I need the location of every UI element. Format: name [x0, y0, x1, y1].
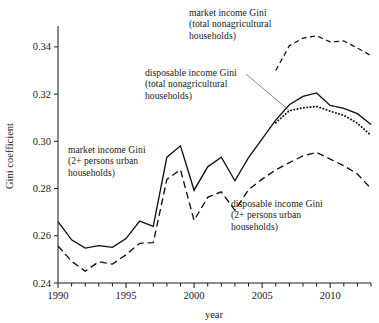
x-tick-label: 1995 — [116, 290, 137, 301]
annotation-disposable-income-total-nonagricultural: disposable income Gini (total nonagricul… — [145, 67, 237, 101]
x-axis-tick-labels: 19901995200020052010 — [48, 290, 341, 301]
annotation-line: disposable income Gini — [145, 67, 237, 78]
annotation-leader-lines — [246, 74, 289, 111]
y-tick-label: 0.28 — [33, 183, 51, 194]
y-tick-label: 0.34 — [33, 41, 52, 52]
annotation-line: (total nonagricultural — [145, 78, 237, 89]
annotation-line: (total nonagricultural — [189, 18, 271, 29]
y-tick-label: 0.26 — [33, 230, 51, 241]
annotation-line: households) — [145, 90, 237, 101]
y-axis-tick-labels: 0.240.260.280.300.320.34 — [33, 41, 52, 288]
y-axis-title: Gini coefficient — [4, 123, 15, 189]
chart-plot-area: 0.240.260.280.300.320.34 199019952000200… — [0, 0, 379, 323]
annotation-line: households) — [189, 30, 271, 41]
series-line-3 — [276, 106, 371, 135]
gini-coefficient-chart: 0.240.260.280.300.320.34 199019952000200… — [0, 0, 379, 323]
annotation-line: households) — [231, 221, 323, 232]
y-tick-label: 0.24 — [33, 278, 52, 289]
annotation-market-income-urban: market income Gini (2+ persons urban hou… — [68, 144, 146, 178]
y-axis-ticks — [54, 47, 58, 283]
x-tick-label: 2000 — [184, 290, 205, 301]
x-axis-title: year — [205, 309, 224, 320]
x-tick-label: 2010 — [320, 290, 341, 301]
x-axis-ticks — [58, 283, 371, 288]
annotation-line: market income Gini — [68, 144, 146, 155]
annotation-line: (2+ persons urban — [231, 209, 323, 220]
leader-line-disposable-total — [246, 74, 289, 111]
series-line-2 — [276, 36, 371, 71]
y-tick-label: 0.30 — [33, 136, 51, 147]
annotation-market-income-total-nonagricultural: market income Gini (total nonagricultura… — [189, 7, 271, 41]
annotation-line: households) — [68, 167, 146, 178]
annotation-line: (2+ persons urban — [68, 155, 146, 166]
y-tick-label: 0.32 — [33, 89, 51, 100]
x-tick-label: 1990 — [48, 290, 69, 301]
x-tick-label: 2005 — [252, 290, 273, 301]
annotation-line: disposable income Gini — [231, 198, 323, 209]
annotation-disposable-income-urban: disposable income Gini (2+ persons urban… — [231, 198, 323, 232]
annotation-line: market income Gini — [189, 7, 271, 18]
